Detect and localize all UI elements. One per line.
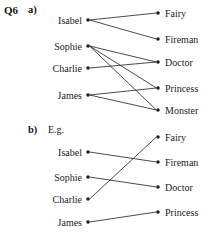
left-node-dot	[86, 175, 90, 179]
mapping-edge	[90, 177, 157, 187]
right-node-dot	[156, 11, 160, 15]
left-node-dot	[86, 220, 90, 224]
right-node-dot	[156, 108, 160, 112]
right-node-dot	[156, 135, 160, 139]
right-node-dot	[156, 37, 160, 41]
worksheet-page: Q6 a) b) E.g. Isabel Sophie Charlie Jame…	[0, 0, 222, 233]
mapping-edge	[90, 20, 157, 39]
right-node-dot	[156, 60, 160, 64]
mapping-edge	[90, 212, 157, 222]
mapping-edge	[90, 46, 157, 62]
mapping-edge	[90, 46, 157, 110]
left-node-dot	[86, 150, 90, 154]
mapping-edge	[90, 88, 157, 95]
mapping-edge	[90, 13, 157, 20]
mapping-edge	[90, 152, 157, 162]
left-node-dot	[86, 93, 90, 97]
right-node-dot	[156, 86, 160, 90]
left-node-dot	[86, 18, 90, 22]
left-node-dot	[86, 197, 90, 201]
left-node-dot	[86, 66, 90, 70]
left-node-dot	[86, 44, 90, 48]
mapping-diagram-edges	[0, 0, 222, 233]
right-node-dot	[156, 210, 160, 214]
mapping-edge	[90, 95, 157, 110]
mapping-edge	[90, 137, 157, 199]
right-node-dot	[156, 160, 160, 164]
right-node-dot	[156, 185, 160, 189]
